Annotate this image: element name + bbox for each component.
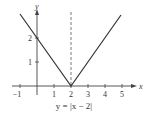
x-tick-label: 2 [69, 90, 73, 99]
x-tick-label: 1 [52, 90, 56, 99]
y-tick-label: 1 [28, 58, 32, 67]
x-tick-label: −1 [13, 90, 22, 99]
chart-caption: y = |x − 2| [0, 101, 148, 111]
x-axis-arrow-icon [131, 84, 137, 88]
x-tick-label: 5 [120, 90, 124, 99]
x-tick-label: 4 [103, 90, 107, 99]
y-tick-label: 2 [28, 34, 32, 43]
function-line [20, 14, 121, 86]
x-tick-label: 3 [86, 90, 90, 99]
y-axis-label: y [34, 2, 39, 11]
x-axis-label: x [138, 82, 143, 91]
